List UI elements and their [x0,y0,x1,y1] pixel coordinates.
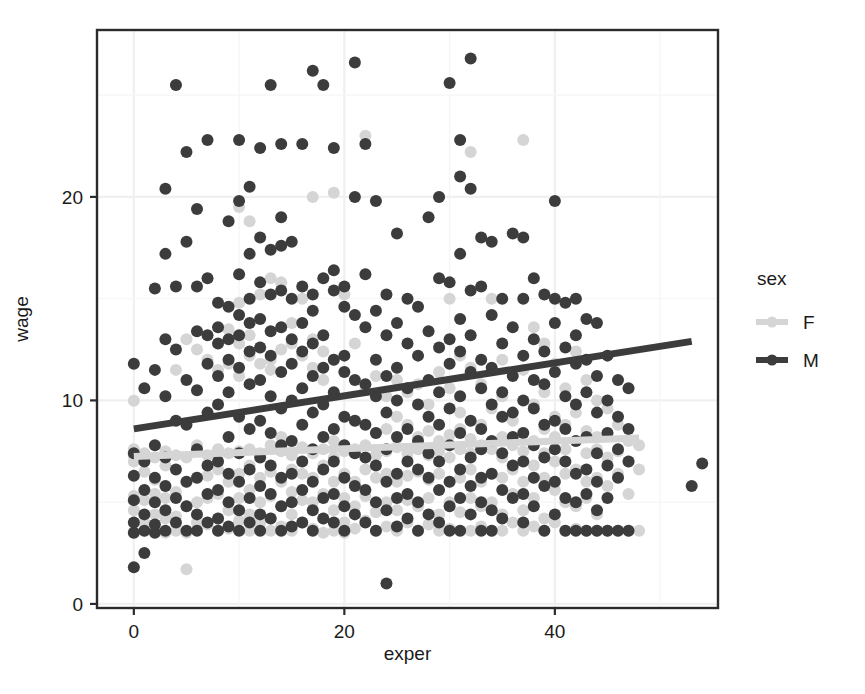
data-point [444,77,456,89]
data-point [486,468,498,480]
data-point [454,313,466,325]
data-point [338,472,350,484]
data-point [180,525,192,537]
data-point [528,272,540,284]
data-point [580,447,592,459]
data-point [580,386,592,398]
data-point [212,398,224,410]
legend-item-M[interactable]: M [755,345,819,375]
data-point [244,464,256,476]
data-point [444,500,456,512]
data-point [170,79,182,91]
data-point [486,309,498,321]
data-point [265,488,277,500]
data-point [338,525,350,537]
data-point [433,419,445,431]
data-point [580,464,592,476]
data-point [465,525,477,537]
data-point [328,504,340,516]
data-point [591,394,603,406]
data-point [402,423,414,435]
data-point [328,423,340,435]
legend-key-point [767,317,778,328]
data-point [433,468,445,480]
data-point [317,431,329,443]
data-point [275,240,287,252]
data-point [538,451,550,463]
data-point [528,374,540,386]
data-point [496,293,508,305]
data-point [475,382,487,394]
data-point [465,415,477,427]
data-point [180,374,192,386]
data-point [328,476,340,488]
data-point [496,411,508,423]
data-point [580,313,592,325]
data-point [328,285,340,297]
data-point [170,464,182,476]
data-point [159,333,171,345]
data-point [128,395,140,407]
data-point [254,496,266,508]
data-point [138,484,150,496]
data-point [412,496,424,508]
data-point [328,488,340,500]
data-point [433,484,445,496]
scatter-plot-svg: 0204001020experwagesexFM [0,0,865,694]
data-point [591,525,603,537]
data-point [128,494,140,506]
data-point [138,508,150,520]
data-point [391,411,403,423]
legend-item-F[interactable]: F [755,307,815,337]
data-point [275,285,287,297]
data-point [475,472,487,484]
data-point [244,329,256,341]
data-point [349,374,361,386]
data-point [380,329,392,341]
data-point [580,476,592,488]
data-point [265,289,277,301]
data-point [454,171,466,183]
data-point [454,390,466,402]
data-point [591,317,603,329]
data-point [170,517,182,529]
data-point [370,496,382,508]
data-point [517,134,529,146]
data-point [465,480,477,492]
data-point [370,460,382,472]
data-point [580,525,592,537]
data-point [349,337,361,349]
data-point [612,374,624,386]
data-point [338,350,350,362]
data-point [591,447,603,459]
data-point [370,354,382,366]
data-point [338,411,350,423]
data-point [370,305,382,317]
data-point [159,525,171,537]
data-point [528,333,540,345]
data-point [370,370,382,382]
data-point [223,354,235,366]
data-point [601,525,613,537]
data-point [475,280,487,292]
data-point [412,525,424,537]
data-point [517,488,529,500]
data-point [254,374,266,386]
data-point [170,280,182,292]
data-point [454,427,466,439]
data-point [496,525,508,537]
data-point [202,134,214,146]
data-point [275,472,287,484]
data-point [296,484,308,496]
data-point [380,423,392,435]
data-point [559,468,571,480]
data-point [623,488,635,500]
data-point [433,341,445,353]
data-point [538,480,550,492]
data-point [338,280,350,292]
data-point [370,472,382,484]
data-point [191,203,203,215]
data-point [328,142,340,154]
y-tick-label: 0 [72,594,83,615]
data-point [623,525,635,537]
